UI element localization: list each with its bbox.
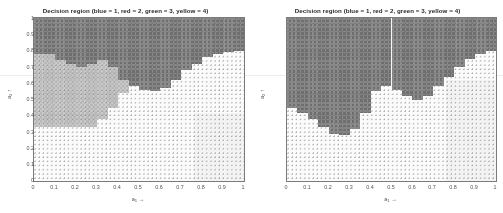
- plot-area-left[interactable]: [33, 17, 245, 182]
- decision-regions-left: [34, 18, 244, 181]
- x-axis-label-subscript: 1: [387, 198, 389, 203]
- y-axis-label-arrow: ↑: [259, 89, 265, 92]
- y-axis-label-arrow: ↑: [6, 89, 12, 92]
- x-axis-label-arrow: →: [139, 196, 145, 202]
- region-right-band: [194, 113, 244, 181]
- figure-root: Decision region (blue = 1, red = 2, gree…: [0, 0, 503, 213]
- y-axis-label-subscript: 2: [8, 94, 13, 96]
- x-axis-label-left: a1 →: [33, 196, 243, 203]
- plot-title-left: Decision region (blue = 1, red = 2, gree…: [0, 7, 251, 14]
- y-axis-label-base: a: [6, 96, 12, 99]
- x-axis-label-subscript: 1: [135, 198, 137, 203]
- x-axis-label-right: a1 →: [286, 196, 495, 203]
- y-axis-label-left: a2 ↑: [6, 89, 13, 99]
- plot-panel-right: Decision region (blue = 1, red = 2, gree…: [252, 0, 503, 213]
- y-axis-label-base: a: [259, 96, 265, 99]
- y-axis-label-subscript: 2: [261, 94, 266, 96]
- plot-area-right[interactable]: [286, 17, 497, 182]
- plot-title-right: Decision region (blue = 1, red = 2, gree…: [252, 7, 503, 14]
- y-axis-label-right: a2 ↑: [259, 89, 266, 99]
- region-right-band: [446, 80, 496, 181]
- x-axis-label-arrow: →: [391, 196, 397, 202]
- decision-regions-right: [287, 18, 496, 181]
- plot-panel-left: Decision region (blue = 1, red = 2, gree…: [0, 0, 251, 213]
